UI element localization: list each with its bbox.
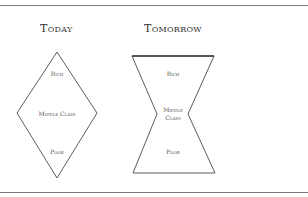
today-rich-label: Rich [37, 70, 77, 78]
today-middle-class-label: Middle Class [22, 110, 92, 118]
today-poor-label: Poor [37, 148, 77, 156]
tomorrow-class-label: Class [153, 114, 193, 122]
tomorrow-rich-label: Rich [153, 70, 193, 78]
diagram-shapes [0, 0, 308, 197]
tomorrow-poor-label: Poor [153, 148, 193, 156]
tomorrow-middle-label: Middle [153, 106, 193, 114]
